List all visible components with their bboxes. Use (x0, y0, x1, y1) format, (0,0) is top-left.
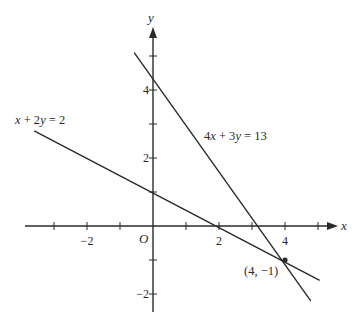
origin-label: O (139, 231, 149, 246)
x-axis-label: x (340, 218, 347, 233)
y-tick-label: 4 (143, 83, 149, 97)
intersection-label: (4, −1) (244, 264, 278, 278)
equation-label-line1: x + 2y = 2 (14, 113, 65, 127)
x-tick-labels: −224 (81, 234, 288, 248)
series-line-1 (134, 53, 311, 301)
x-axis-arrow-icon (327, 222, 338, 230)
graph-figure: −224 42−2 x y O x + 2y = 2 4x + 3y = 13 … (0, 0, 356, 323)
equation-label-line2: 4x + 3y = 13 (204, 129, 267, 143)
x-tick-label: −2 (81, 234, 94, 248)
axes (25, 32, 333, 312)
y-tick-label: −2 (136, 287, 149, 301)
y-tick-label: 2 (143, 151, 149, 165)
y-tick-labels: 42−2 (136, 83, 149, 301)
x-tick-label: 2 (216, 234, 222, 248)
series-line-2 (34, 131, 319, 281)
y-axis-label: y (146, 10, 154, 25)
x-tick-label: 4 (282, 234, 288, 248)
y-axis-arrow-icon (149, 27, 157, 38)
intersection-point (282, 257, 287, 262)
